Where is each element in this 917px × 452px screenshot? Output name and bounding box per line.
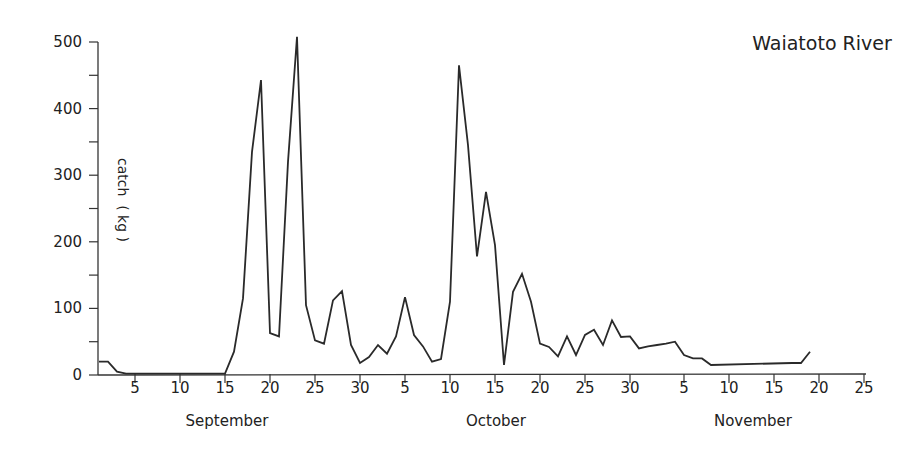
month-label-september: September bbox=[186, 412, 270, 430]
x-tick-label: 10 bbox=[719, 379, 738, 397]
month-label-october: October bbox=[466, 412, 527, 430]
x-tick-label: 10 bbox=[440, 379, 459, 397]
month-label-november: November bbox=[714, 412, 793, 430]
x-tick-label: 30 bbox=[620, 379, 639, 397]
x-tick-label: 20 bbox=[809, 379, 828, 397]
y-axis-label: catch ( kg ) bbox=[115, 158, 131, 242]
catch-line-chart: 0100200300400500 51015202530September510… bbox=[0, 0, 917, 452]
x-tick-label: 25 bbox=[575, 379, 594, 397]
y-tick-label: 0 bbox=[72, 366, 82, 384]
y-tick-label: 100 bbox=[53, 299, 82, 317]
x-tick-label: 25 bbox=[854, 379, 873, 397]
y-axis-tick-labels: 0100200300400500 bbox=[53, 33, 82, 384]
x-tick-label: 20 bbox=[260, 379, 279, 397]
catch-series-line bbox=[99, 37, 810, 374]
x-tick-label: 5 bbox=[400, 379, 410, 397]
x-axis-tick-labels: 51015202530September51015202530October51… bbox=[130, 379, 873, 430]
x-tick-label: 25 bbox=[305, 379, 324, 397]
x-tick-label: 5 bbox=[679, 379, 689, 397]
x-tick-label: 15 bbox=[485, 379, 504, 397]
x-tick-label: 15 bbox=[764, 379, 783, 397]
y-tick-label: 200 bbox=[53, 233, 82, 251]
x-tick-label: 5 bbox=[130, 379, 140, 397]
x-tick-label: 15 bbox=[215, 379, 234, 397]
y-tick-label: 500 bbox=[53, 33, 82, 51]
chart-title: Waiatoto River bbox=[752, 32, 892, 54]
axes bbox=[89, 42, 866, 383]
y-tick-label: 300 bbox=[53, 166, 82, 184]
x-tick-label: 20 bbox=[530, 379, 549, 397]
x-tick-label: 30 bbox=[350, 379, 369, 397]
y-tick-label: 400 bbox=[53, 100, 82, 118]
x-tick-label: 10 bbox=[170, 379, 189, 397]
